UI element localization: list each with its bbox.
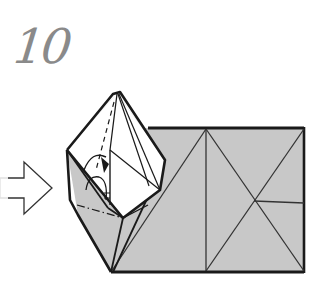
origami-diagram [0,0,320,289]
diagram-canvas: 10 [0,0,320,289]
push-arrow-icon [0,162,52,214]
